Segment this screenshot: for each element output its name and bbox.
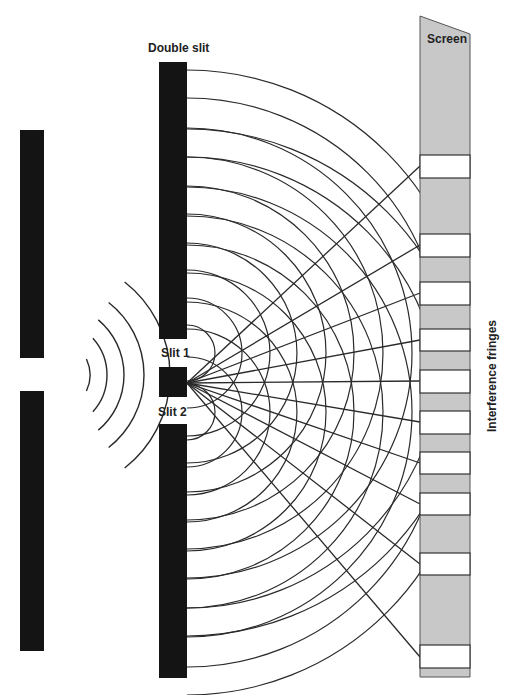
incoming-wavefronts (86, 282, 170, 468)
bright-fringe (420, 645, 470, 668)
diffraction-arc (187, 270, 270, 436)
bright-fringe (420, 553, 470, 575)
barrier-lower (20, 391, 44, 651)
double-slit-label: Double slit (148, 41, 209, 55)
ray-line (187, 381, 420, 383)
ray-line (187, 383, 420, 564)
interference-fringes-label: Interference fringes (485, 320, 499, 432)
source-barrier (20, 130, 44, 651)
ray-line (187, 383, 420, 463)
bright-fringe (420, 452, 470, 474)
double-slit-barrier (159, 62, 187, 678)
diffraction-arc (187, 187, 412, 637)
wavefront-arc (109, 303, 144, 448)
screen-label: Screen (427, 32, 467, 46)
ray-line (187, 166, 420, 383)
ray-line (187, 340, 420, 383)
bright-fringe (420, 234, 470, 257)
slit1-label: Slit 1 (161, 346, 190, 360)
wavefront-arc (86, 359, 90, 391)
slit-bar-lower (159, 424, 187, 678)
diffraction-arc (187, 128, 412, 578)
slit-bar-upper (159, 62, 187, 339)
ray-line (187, 383, 420, 504)
bright-fringe (420, 493, 470, 515)
ray-line (187, 383, 420, 422)
bright-fringe (420, 329, 470, 351)
bright-fringe (420, 282, 470, 305)
bright-fringe (420, 411, 470, 434)
diffraction-arc (187, 329, 270, 495)
diffraction-arc (187, 384, 215, 440)
ray-line (187, 293, 420, 383)
slit-bar-middle (159, 367, 187, 397)
barrier-upper (20, 130, 44, 358)
diffraction-arc (187, 325, 215, 381)
double-slit-diagram: Double slitScreenSlit 1Slit 2Interferenc… (0, 0, 510, 695)
ray-line (187, 245, 420, 383)
bright-fringe (420, 155, 470, 178)
slit2-label: Slit 2 (158, 405, 187, 419)
wavefront-arc (93, 338, 107, 412)
bright-fringe (420, 370, 470, 393)
interference-rays (187, 166, 420, 657)
wavefront-arc (98, 320, 124, 430)
